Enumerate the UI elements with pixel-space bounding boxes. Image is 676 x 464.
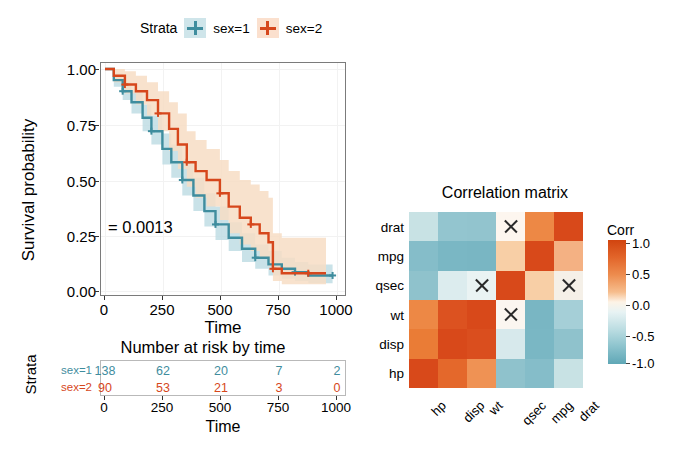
corr-legend-tick: 0.0 — [632, 298, 650, 313]
tick-mark-icon — [626, 305, 630, 306]
corr-legend-tick: -1.0 — [632, 356, 654, 371]
corr-legend-tick: 0.5 — [632, 267, 650, 282]
tick-mark-icon — [626, 363, 630, 364]
corr-legend-tick: -0.5 — [632, 329, 654, 344]
tick-mark-icon — [626, 243, 630, 244]
corr-legend-ticks: 1.00.50.0-0.5-1.0 — [0, 0, 676, 464]
tick-mark-icon — [626, 274, 630, 275]
corr-legend-tick: 1.0 — [632, 236, 650, 251]
tick-mark-icon — [626, 336, 630, 337]
figure-canvas: Strata sex=1 sex=2 Survival probability … — [0, 0, 676, 464]
